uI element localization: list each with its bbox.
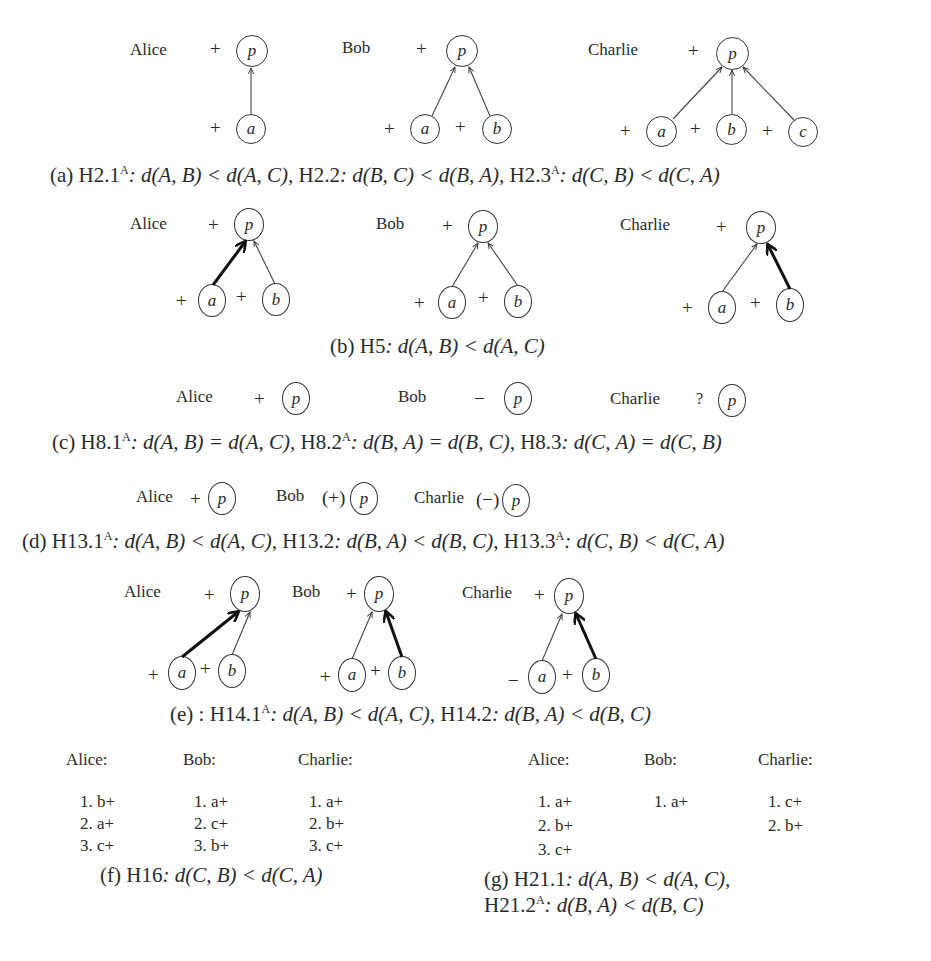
hypothesis-label: H21.1 bbox=[514, 867, 566, 891]
list-item: 1. a+ bbox=[654, 792, 688, 812]
edge-a-p bbox=[722, 244, 757, 292]
hypothesis-eq: : d(C, B) < d(C, A) bbox=[162, 863, 322, 887]
list-item: 2. c+ bbox=[194, 814, 228, 834]
caption-g-line1: (g) H21.1: d(A, B) < d(A, C), bbox=[484, 867, 730, 892]
list-item: 1. a+ bbox=[194, 792, 228, 812]
hypothesis-eq: : d(B, A) < d(B, C) bbox=[545, 893, 704, 917]
edge-a-p bbox=[432, 67, 455, 116]
list-item: 1. a+ bbox=[309, 792, 343, 812]
list-item: 2. b+ bbox=[538, 816, 573, 836]
list-item: 3. c+ bbox=[309, 836, 343, 856]
list-head-charlie: Charlie: bbox=[298, 750, 353, 770]
list-item: 1. b+ bbox=[80, 792, 115, 812]
caption-prefix: (f) bbox=[100, 863, 126, 887]
list-head-bob: Bob: bbox=[183, 750, 216, 770]
list-item: 3. b+ bbox=[194, 836, 229, 856]
edge-a-p bbox=[452, 243, 478, 287]
list-item: 3. c+ bbox=[80, 836, 114, 856]
edge-b-p-thick bbox=[576, 614, 596, 659]
list-head-bob: Bob: bbox=[644, 750, 677, 770]
edge-b-p-thick bbox=[386, 612, 402, 657]
list-head-alice: Alice: bbox=[528, 750, 570, 770]
edge-b-p bbox=[254, 241, 275, 284]
caption-f: (f) H16: d(C, B) < d(C, A) bbox=[100, 863, 323, 888]
list-item: 2. a+ bbox=[80, 814, 114, 834]
hypothesis-label: H16 bbox=[126, 863, 162, 887]
edge-a-p bbox=[542, 614, 562, 661]
edge-b-p bbox=[232, 612, 250, 655]
edge-a-p bbox=[673, 67, 722, 119]
list-head-charlie: Charlie: bbox=[758, 750, 813, 770]
edge-a-p-thick bbox=[213, 242, 245, 285]
list-item: 2. b+ bbox=[309, 814, 344, 834]
edge-b-p bbox=[488, 243, 518, 286]
edge-a-p-thick bbox=[182, 612, 238, 657]
edge-c-p bbox=[743, 67, 794, 120]
caption-prefix: (g) bbox=[484, 867, 514, 891]
list-item: 1. c+ bbox=[768, 792, 802, 812]
edge-b-p-thick bbox=[768, 245, 790, 289]
caption-g-line2: H21.2A: d(B, A) < d(B, C) bbox=[484, 893, 704, 918]
edge-a-p bbox=[352, 612, 372, 659]
hypothesis-eq: : d(A, B) < d(A, C), bbox=[566, 867, 731, 891]
edge-b-p bbox=[469, 67, 490, 116]
list-item: 3. c+ bbox=[538, 840, 572, 860]
hypothesis-label: H21.2 bbox=[484, 893, 536, 917]
list-item: 1. a+ bbox=[538, 792, 572, 812]
list-head-alice: Alice: bbox=[66, 750, 108, 770]
hypothesis-sup: A bbox=[536, 893, 545, 907]
list-item: 2. b+ bbox=[768, 816, 803, 836]
